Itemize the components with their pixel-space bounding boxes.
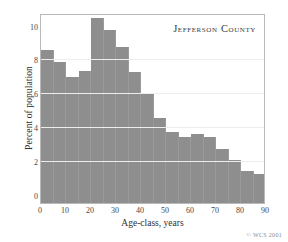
x-tick-label: 20 [80, 206, 100, 215]
histogram-bar [141, 93, 154, 203]
x-tick-label: 60 [180, 206, 200, 215]
x-tick-label: 70 [205, 206, 225, 215]
x-tick-label: 0 [30, 206, 50, 215]
x-tick-label: 40 [130, 206, 150, 215]
x-tick-label: 30 [105, 206, 125, 215]
histogram-bar [179, 137, 192, 203]
copyright-credit: © WCS 2001 [247, 232, 282, 238]
histogram-bar [104, 30, 117, 203]
x-tick-label: 90 [255, 206, 275, 215]
y-tick-label: 2 [20, 159, 38, 167]
histogram-bar [154, 118, 167, 203]
histogram-bar [66, 77, 79, 203]
x-axis-tick-labels: 0102030405060708090 [40, 206, 265, 217]
histogram-bar [241, 171, 254, 203]
chart-title: Jefferson County [173, 23, 256, 34]
x-tick-label: 50 [155, 206, 175, 215]
gridline [41, 59, 264, 60]
y-tick-label: 6 [20, 91, 38, 99]
histogram-bar [166, 132, 179, 203]
plot-area: Jefferson County [40, 14, 265, 204]
histogram-bar [41, 50, 54, 203]
histogram-bar [116, 47, 129, 203]
x-tick-label: 80 [230, 206, 250, 215]
histogram-bar [191, 134, 204, 203]
y-tick-label: 10 [20, 24, 38, 32]
x-axis-label: Age-class, years [40, 218, 265, 228]
y-tick-label: 8 [20, 57, 38, 65]
histogram-bar [204, 137, 217, 203]
y-tick-label: 0 [20, 193, 38, 201]
plot-surface [41, 15, 264, 203]
x-tick-label: 10 [55, 206, 75, 215]
histogram-bar [129, 72, 142, 203]
histogram-bar [91, 18, 104, 203]
histogram-bar [216, 149, 229, 203]
histogram-bar [79, 71, 92, 203]
chart-figure: Percent of population 0246810 Jefferson … [0, 0, 288, 242]
histogram-bar [229, 160, 242, 203]
histogram-bar [254, 174, 266, 203]
y-tick-label: 4 [20, 125, 38, 133]
histogram-bar [54, 62, 67, 203]
y-axis-tick-labels: 0246810 [16, 14, 38, 204]
